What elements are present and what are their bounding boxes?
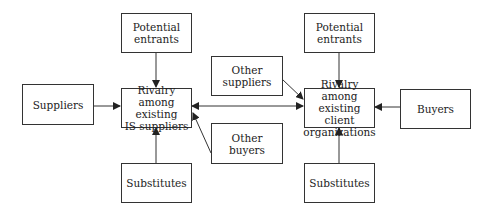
left-potential-entrants-box: Potential entrants [121,13,192,53]
buyers-box: Buyers [400,89,471,129]
other-buyers-box: Other buyers [211,123,283,164]
other-suppliers-box: Other suppliers [211,56,283,96]
left-rivalry-box: Rivalry among existing IS suppliers [121,88,192,128]
right-rivalry-box: Rivalry among existing client organizati… [304,88,375,128]
left-substitutes-box: Substitutes [121,163,192,203]
suppliers-box: Suppliers [22,84,94,125]
right-substitutes-box: Substitutes [304,163,375,203]
right-potential-entrants-box: Potential entrants [304,13,375,53]
five-forces-diagram: Potential entrants Suppliers Rivalry amo… [0,0,490,216]
